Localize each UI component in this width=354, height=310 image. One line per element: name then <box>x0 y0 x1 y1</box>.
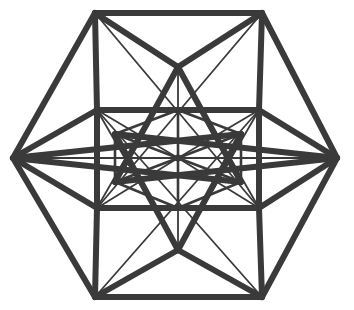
link-outer-tr-rect-tr <box>259 13 262 110</box>
figure-canvas <box>0 0 354 310</box>
hexagonal-star-diagram <box>0 0 354 310</box>
center-hub-dot <box>174 154 181 161</box>
link-outer-tl-rect-tl <box>95 13 97 110</box>
center-hub-group <box>174 154 181 161</box>
link-outer-br-rect-br <box>259 208 262 297</box>
link-outer-bl-rect-bl <box>95 208 97 297</box>
